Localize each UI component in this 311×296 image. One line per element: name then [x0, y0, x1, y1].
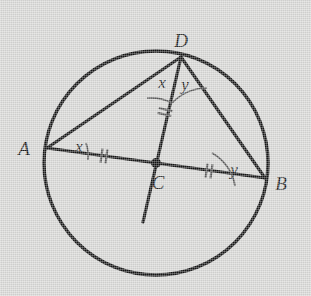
angle-label-x-at-A: x — [74, 137, 83, 156]
geometry-figure: A B C D x x y y — [0, 0, 311, 296]
vertex-label-C: C — [152, 172, 165, 193]
arc-at-A — [86, 143, 88, 160]
geometry-canvas: A B C D x x y y — [0, 0, 311, 296]
segment-AD — [47, 57, 181, 148]
angle-label-x-at-D: x — [157, 73, 166, 92]
vertex-label-D: D — [173, 30, 188, 51]
vertex-label-B: B — [275, 173, 287, 194]
angle-label-y-at-D: y — [179, 75, 189, 94]
arc-at-D-left — [147, 98, 172, 103]
vertex-label-A: A — [16, 138, 30, 159]
arc-at-D-right — [172, 88, 207, 103]
angle-label-y-at-B: y — [228, 160, 238, 179]
center-point-dot — [151, 158, 161, 168]
